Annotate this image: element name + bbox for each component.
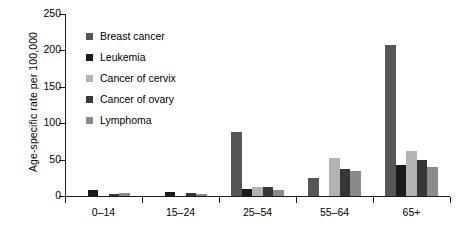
bar bbox=[417, 160, 428, 196]
x-axis-category-label: 25–54 bbox=[219, 206, 296, 218]
legend-swatch-icon bbox=[86, 33, 93, 40]
x-axis-category-label: 0–14 bbox=[65, 206, 142, 218]
bar bbox=[263, 187, 274, 196]
y-axis-title: Age-specific rate per 100,000 bbox=[27, 2, 39, 202]
bar bbox=[231, 132, 242, 196]
bar bbox=[186, 193, 197, 196]
bar bbox=[252, 187, 263, 196]
bar bbox=[119, 193, 130, 196]
x-axis-category-label: 65+ bbox=[373, 206, 450, 218]
legend-item: Lymphoma bbox=[86, 110, 176, 131]
bar bbox=[406, 151, 417, 196]
bar bbox=[329, 158, 340, 196]
bar bbox=[273, 190, 284, 196]
bar bbox=[396, 165, 407, 196]
bar bbox=[109, 194, 120, 196]
y-axis-tick-label: 50 bbox=[49, 153, 61, 165]
legend-item-label: Cancer of ovary bbox=[100, 94, 174, 105]
bar bbox=[350, 171, 361, 196]
x-axis-line bbox=[65, 196, 450, 197]
legend-item: Leukemia bbox=[86, 47, 176, 68]
x-axis-tick-mark bbox=[142, 197, 143, 203]
legend-item-label: Leukemia bbox=[100, 52, 146, 63]
x-axis-tick-mark bbox=[219, 197, 220, 203]
y-axis-tick-label: 250 bbox=[43, 7, 61, 19]
x-axis-category-label: 55–64 bbox=[296, 206, 373, 218]
x-axis-tick-mark bbox=[65, 197, 66, 203]
bar-chart: Age-specific rate per 100,000 0501001502… bbox=[0, 0, 461, 231]
y-axis-tick-label: 100 bbox=[43, 116, 61, 128]
legend-item-label: Breast cancer bbox=[100, 31, 165, 42]
bar bbox=[165, 192, 176, 196]
x-axis-category-label: 15–24 bbox=[142, 206, 219, 218]
legend-swatch-icon bbox=[86, 117, 93, 124]
chart-legend: Breast cancerLeukemiaCancer of cervixCan… bbox=[86, 26, 176, 131]
bar bbox=[88, 190, 99, 196]
bar bbox=[427, 167, 438, 196]
bar bbox=[308, 178, 319, 196]
bar bbox=[196, 194, 207, 196]
bar-group bbox=[373, 14, 450, 196]
bar-group bbox=[219, 14, 296, 196]
legend-swatch-icon bbox=[86, 54, 93, 61]
y-axis-tick-label: 200 bbox=[43, 43, 61, 55]
legend-swatch-icon bbox=[86, 75, 93, 82]
legend-item: Cancer of cervix bbox=[86, 68, 176, 89]
legend-item: Cancer of ovary bbox=[86, 89, 176, 110]
x-axis-tick-mark bbox=[296, 197, 297, 203]
x-axis-tick-mark bbox=[450, 197, 451, 203]
bar-group bbox=[296, 14, 373, 196]
x-axis-tick-mark bbox=[373, 197, 374, 203]
legend-item-label: Lymphoma bbox=[100, 115, 152, 126]
legend-item-label: Cancer of cervix bbox=[100, 73, 176, 84]
bar bbox=[242, 189, 253, 196]
legend-item: Breast cancer bbox=[86, 26, 176, 47]
legend-swatch-icon bbox=[86, 96, 93, 103]
y-axis-tick-label: 0 bbox=[55, 189, 61, 201]
bar bbox=[340, 169, 351, 196]
bar bbox=[385, 45, 396, 196]
y-axis-tick-label: 150 bbox=[43, 80, 61, 92]
